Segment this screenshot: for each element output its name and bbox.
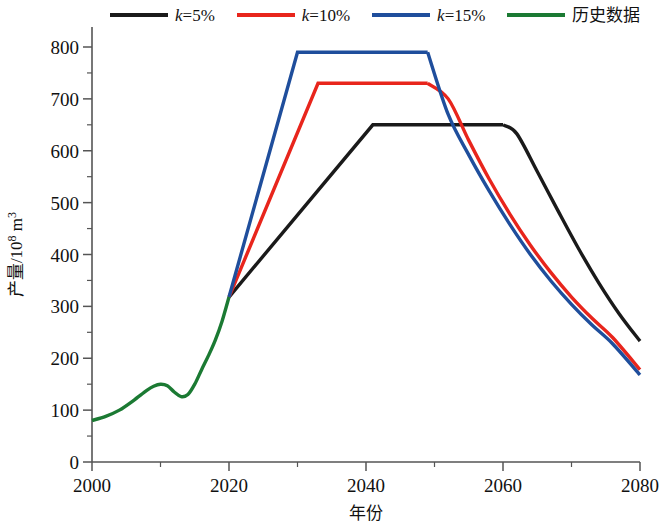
axis-labels-group: 0100200300400500600700800200020202040206… bbox=[5, 37, 659, 523]
y-tick-label: 0 bbox=[70, 452, 80, 473]
x-axis-title: 年份 bbox=[349, 504, 383, 523]
plot-area: 0100200300400500600700800200020202040206… bbox=[0, 0, 669, 526]
x-tick-label: 2020 bbox=[210, 475, 248, 496]
y-tick-label: 200 bbox=[51, 348, 80, 369]
series-line-k15 bbox=[229, 52, 640, 375]
y-title-tail-sup: 3 bbox=[5, 212, 19, 218]
chart-figure: k=5%k=10%k=15%历史数据 010020030040050060070… bbox=[0, 0, 669, 526]
x-tick-label: 2000 bbox=[73, 475, 111, 496]
y-tick-label: 400 bbox=[51, 245, 80, 266]
y-title-main: 产量/10 bbox=[7, 241, 26, 297]
series-line-history bbox=[92, 297, 229, 420]
x-tick-label: 2080 bbox=[621, 475, 659, 496]
y-tick-label: 300 bbox=[51, 296, 80, 317]
x-tick-label: 2060 bbox=[484, 475, 522, 496]
axes-group bbox=[83, 27, 640, 471]
series-line-k5 bbox=[229, 125, 640, 341]
y-axis-title-text: 产量/108 m3 bbox=[5, 212, 26, 297]
chart-svg: 0100200300400500600700800200020202040206… bbox=[0, 0, 669, 526]
x-tick-label: 2040 bbox=[347, 475, 385, 496]
y-tick-label: 100 bbox=[51, 400, 80, 421]
y-title-tail: m bbox=[7, 218, 26, 235]
y-tick-label: 600 bbox=[51, 141, 80, 162]
series-group bbox=[92, 52, 640, 420]
y-axis-title: 产量/108 m3 bbox=[5, 212, 26, 297]
y-tick-label: 500 bbox=[51, 193, 80, 214]
y-tick-label: 800 bbox=[51, 37, 80, 58]
y-tick-label: 700 bbox=[51, 89, 80, 110]
